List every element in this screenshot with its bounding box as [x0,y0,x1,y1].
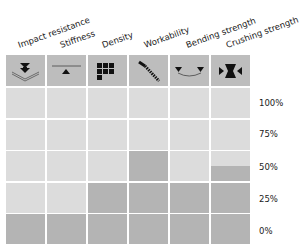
grid-cell [129,183,168,213]
bar-fill [170,214,209,244]
grid-cell [47,183,86,213]
grid-cell [211,151,250,181]
grid-cell [129,214,168,244]
grid-cell [129,88,168,118]
grid-cell [211,88,250,118]
bar-fill [88,214,127,244]
bar-fill [6,214,45,244]
grid-cell [129,151,168,181]
grid-cell [170,120,209,150]
grid-cell [47,120,86,150]
grid-cell [47,151,86,181]
grid-cell [88,120,127,150]
grid-cell [88,88,127,118]
bar-fill [88,183,127,213]
tick-label-0: 0% [259,226,273,236]
bar-fill [211,183,250,213]
grid-cell [170,88,209,118]
grid-cell [88,183,127,213]
grid-cell [6,151,45,181]
grid-cell [170,183,209,213]
bar-fill [129,183,168,213]
bar-fill [129,214,168,244]
bar-fill [170,183,209,213]
bar-fill [211,214,250,244]
grid-cell [88,214,127,244]
grid-cell [170,214,209,244]
grid-cell [6,214,45,244]
tick-label-100: 100% [259,98,283,108]
grid-cell [211,120,250,150]
grid-cell [88,151,127,181]
grid-cell [47,214,86,244]
bar-fill [129,151,168,181]
grid-cell [211,183,250,213]
grid-cell [6,88,45,118]
tick-label-50: 50% [259,162,278,172]
workability-icon [129,55,168,86]
grid-cell [129,120,168,150]
grid-cell [6,120,45,150]
bar-fill [211,166,250,181]
grid-cell [47,88,86,118]
impact-icon [6,55,45,86]
grid-cell [211,214,250,244]
crushing-icon [211,55,250,86]
bending-icon [170,55,209,86]
grid-cell [6,183,45,213]
stiffness-icon [47,55,86,86]
tick-label-25: 25% [259,194,278,204]
bar-fill [47,214,86,244]
density-icon [88,55,127,86]
column-label-workability: Workability [143,24,191,50]
grid-cell [170,151,209,181]
tick-label-75: 75% [259,129,278,139]
column-label-density: Density [101,30,135,50]
